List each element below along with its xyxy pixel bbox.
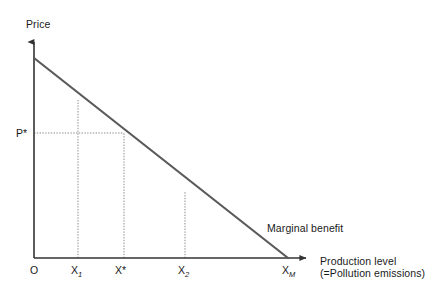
x-axis-title: Production level (=Pollution emissions) [320, 255, 425, 280]
marginal-benefit-line [34, 58, 288, 258]
y-axis-title: Price [26, 18, 50, 30]
guide-lines [34, 100, 185, 258]
price-star-label: P* [16, 127, 27, 139]
x-axis-title-line2: (=Pollution emissions) [320, 267, 425, 279]
xm-subscript: M [289, 270, 295, 279]
origin-label: O [30, 264, 38, 276]
marginal-benefit-label: Marginal benefit [267, 222, 343, 234]
marginal-benefit-diagram: Price P* O X1 X* X2 XM Marginal benefit … [0, 0, 440, 301]
x-axis-title-line1: Production level [320, 255, 425, 267]
x1-subscript: 1 [78, 270, 82, 279]
xstar-label: X* [115, 264, 126, 276]
x2-subscript: 2 [185, 270, 189, 279]
x1-label: X1 [71, 264, 82, 280]
xm-label: XM [282, 264, 295, 280]
xstar-asterisk: * [122, 264, 126, 276]
price-star-asterisk: * [23, 127, 27, 139]
x2-label: X2 [178, 264, 189, 280]
